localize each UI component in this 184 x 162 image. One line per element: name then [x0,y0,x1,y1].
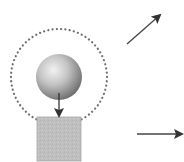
physics-diagram [0,0,184,162]
diagram-canvas [0,0,184,162]
diagonal-velocity-arrow-icon [127,15,160,44]
block [37,117,81,161]
